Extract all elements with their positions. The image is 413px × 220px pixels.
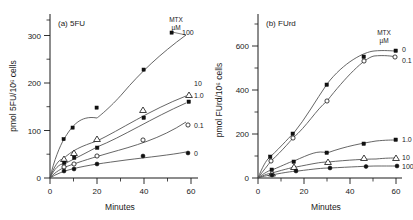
panel-b-ytick-400: 400 [236, 86, 250, 95]
panel-a-xtick-0: 0 [48, 187, 53, 196]
panel-a-plot: 0 100 200 300 0 20 40 60 Minutes [0, 0, 206, 220]
panel-a-curve-1p0 [50, 103, 186, 178]
panel-a-x-minor-ticks [74, 178, 168, 182]
panel-b-x-axis-title: Minutes [311, 202, 341, 212]
panel-a-ytick-200: 200 [28, 79, 42, 88]
panel-b-label: (b) FUrd [266, 19, 296, 28]
panel-b-legend-title: MTX [377, 29, 391, 36]
panel-b-points-0 [269, 49, 398, 158]
panel-b-plot: 0 200 400 600 0 20 40 60 Minutes [206, 0, 413, 220]
panel-b-series-label-0p1: 0.1 [402, 57, 412, 64]
panel-a-ytick-0: 0 [37, 174, 42, 183]
panel-b-series-label-0: 0 [402, 46, 406, 53]
panel-b-xtick-20: 20 [300, 187, 309, 196]
panel-a-series-label-100: 100 [182, 29, 194, 36]
panel-b-points-10 [269, 155, 400, 176]
panel-a-y-minor-ticks [47, 20, 51, 154]
panel-b-y-axis-title: pmol FUrd/10⁶ cells [214, 63, 224, 137]
panel-b-ytick-600: 600 [236, 42, 250, 51]
panel-a-curve-100 [50, 35, 186, 178]
panel-b-ytick-200: 200 [236, 130, 250, 139]
panel-b-ytick-0: 0 [245, 174, 250, 183]
panel-a-series-label-0p1: 0.1 [194, 122, 204, 129]
panel-b-furd: 0 200 400 600 0 20 40 60 Minutes [206, 0, 412, 220]
panel-b-legend-units: µM [379, 37, 388, 45]
panel-a-legend-title: MTX [169, 16, 183, 23]
panel-a-ytick-100: 100 [28, 127, 42, 136]
panel-a-xtick-60: 60 [187, 187, 196, 196]
panel-b-series-label-1p0: 1.0 [402, 136, 412, 143]
panel-a-5fu: 0 100 200 300 0 20 40 60 Minutes [0, 0, 206, 220]
panel-a-series-label-0: 0 [194, 150, 198, 157]
panel-a-ytick-300: 300 [28, 32, 42, 41]
panel-a-xtick-40: 40 [140, 187, 149, 196]
panel-b-curve-100 [258, 166, 396, 178]
panel-a-x-axis-title: Minutes [105, 202, 135, 212]
panel-a-series-label-10: 10 [194, 80, 202, 87]
panel-b-series-label-10: 10 [402, 154, 410, 161]
panel-b-xtick-40: 40 [346, 187, 355, 196]
panel-a-series-label-1p0: 1.0 [194, 92, 204, 99]
panel-b-points-0p1 [269, 55, 397, 163]
panel-a-xtick-20: 20 [93, 187, 102, 196]
panel-a-label: (a) 5FU [58, 19, 85, 28]
panel-a-points-100 [62, 31, 173, 141]
figure-container: 0 100 200 300 0 20 40 60 Minutes [0, 0, 413, 220]
panel-b-xtick-60: 60 [392, 187, 401, 196]
panel-b-curve-0p1 [258, 56, 396, 178]
panel-a-points-10 [61, 92, 193, 162]
panel-b-xtick-0: 0 [256, 187, 261, 196]
panel-b-series-label-100: 100 [402, 163, 413, 170]
panel-b-x-minor-ticks [281, 178, 373, 182]
panel-a-points-0p1 [62, 123, 190, 169]
panel-a-y-axis-title: pmol 5FU/10⁶ cells [8, 60, 18, 132]
